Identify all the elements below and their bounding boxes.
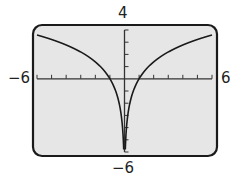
y-max-label: 4 xyxy=(118,6,128,21)
x-min-label: −6 xyxy=(8,71,30,86)
x-max-label: 6 xyxy=(221,71,231,86)
y-min-label: −6 xyxy=(112,161,134,176)
graphing-calculator-screen xyxy=(0,0,237,183)
